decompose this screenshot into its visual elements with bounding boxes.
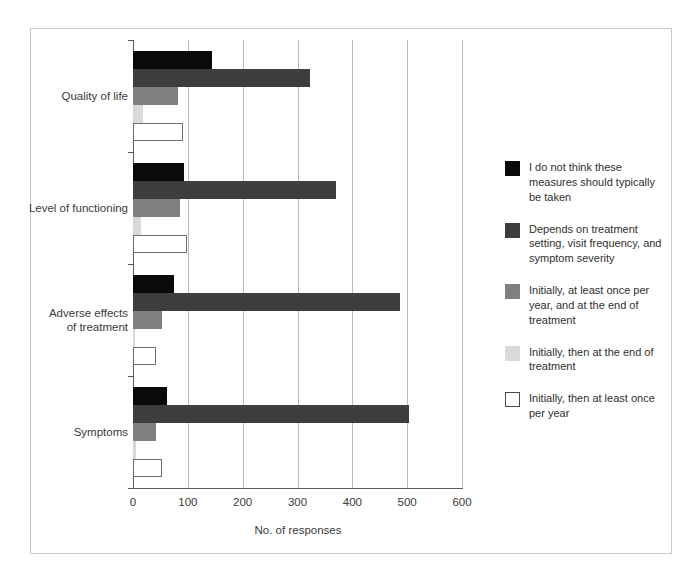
- legend-swatch-icon: [505, 161, 520, 176]
- gridline-600: [462, 40, 463, 488]
- y-axis-tick: [128, 152, 134, 153]
- y-axis-tick: [128, 264, 134, 265]
- figure-bar-chart: 0100200300400500600 No. of responses Qua…: [0, 0, 699, 585]
- bar: [133, 405, 409, 423]
- legend-item[interactable]: Depends on treatment setting, visit freq…: [505, 222, 670, 267]
- y-axis-tick: [128, 376, 134, 377]
- bar: [133, 275, 174, 293]
- x-tick-label-200: 200: [213, 496, 273, 508]
- y-category-label-line: Level of functioning: [8, 201, 128, 215]
- legend-swatch-icon: [505, 392, 520, 407]
- bar: [133, 181, 336, 199]
- bar: [133, 347, 156, 365]
- y-axis-tick: [128, 488, 134, 489]
- y-axis-category-labels: Quality of lifeLevel of functioningAdver…: [4, 0, 128, 585]
- x-tick-label-100: 100: [158, 496, 218, 508]
- x-tick-label-600: 600: [432, 496, 492, 508]
- bar: [133, 69, 310, 87]
- chart-legend: I do not think these measures should typ…: [505, 160, 670, 438]
- bar: [133, 293, 400, 311]
- legend-item-label: Initially, at least once per year, and a…: [529, 283, 670, 328]
- legend-item-label: Depends on treatment setting, visit freq…: [529, 222, 670, 267]
- bar: [133, 441, 136, 459]
- y-category-label: Level of functioning: [8, 201, 128, 215]
- y-category-label: Symptoms: [8, 425, 128, 439]
- legend-swatch-icon: [505, 284, 520, 299]
- x-axis-spine: [133, 488, 463, 489]
- y-axis-tick: [128, 40, 134, 41]
- x-tick-label-500: 500: [377, 496, 437, 508]
- bar: [133, 123, 183, 141]
- bar: [133, 329, 135, 347]
- y-category-label-line: Adverse effects: [8, 306, 128, 320]
- bar: [133, 51, 212, 69]
- bar: [133, 217, 141, 235]
- y-category-label: Adverse effectsof treatment: [8, 306, 128, 335]
- legend-item-label: I do not think these measures should typ…: [529, 160, 670, 205]
- legend-item[interactable]: Initially, then at least once per year: [505, 391, 670, 421]
- legend-item-label: Initially, then at least once per year: [529, 391, 670, 421]
- y-category-label-line: Symptoms: [8, 425, 128, 439]
- legend-swatch-icon: [505, 346, 520, 361]
- bar: [133, 105, 143, 123]
- bar: [133, 199, 180, 217]
- y-category-label: Quality of life: [8, 89, 128, 103]
- bar: [133, 423, 156, 441]
- legend-item[interactable]: Initially, then at the end of treatment: [505, 345, 670, 375]
- legend-item[interactable]: Initially, at least once per year, and a…: [505, 283, 670, 328]
- x-tick-label-300: 300: [268, 496, 328, 508]
- legend-swatch-icon: [505, 223, 520, 238]
- bar: [133, 459, 162, 477]
- bar: [133, 235, 187, 253]
- x-tick-label-400: 400: [322, 496, 382, 508]
- legend-item-label: Initially, then at the end of treatment: [529, 345, 670, 375]
- legend-item[interactable]: I do not think these measures should typ…: [505, 160, 670, 205]
- y-category-label-line: Quality of life: [8, 89, 128, 103]
- y-category-label-line: of treatment: [8, 320, 128, 334]
- x-axis-title: No. of responses: [133, 524, 463, 536]
- bar: [133, 311, 162, 329]
- bar: [133, 163, 184, 181]
- bar: [133, 87, 178, 105]
- bar: [133, 387, 167, 405]
